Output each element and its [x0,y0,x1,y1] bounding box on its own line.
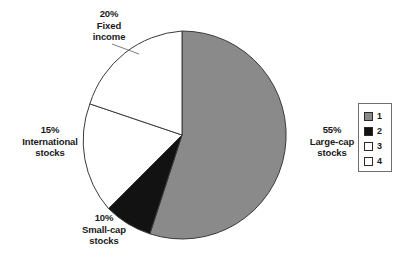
legend-swatch-3-icon [364,142,373,151]
legend-swatch-1-icon [364,112,373,121]
legend-item-4[interactable]: 4 [364,154,391,169]
legend-swatch-2-icon [364,127,373,136]
chart-legend: 1 2 3 4 [358,103,392,172]
legend-label-2: 2 [377,127,382,136]
pie-label-international-line1: International [2,136,98,148]
legend-label-3: 3 [377,142,382,151]
pie-label-fixed-income: 20% Fixed income [72,8,146,43]
legend-item-3[interactable]: 3 [364,139,391,154]
pie-label-small-cap: 10% Small-cap stocks [62,212,146,247]
pie-label-small-cap-line2: stocks [62,235,146,247]
legend-item-1[interactable]: 1 [364,109,391,124]
legend-label-1: 1 [377,112,382,121]
pie-label-international: 15% International stocks [2,124,98,159]
pie-label-fixed-income-percent: 20% [72,8,146,20]
pie-chart-figure: 20% Fixed income 15% International stock… [0,0,409,262]
pie-label-small-cap-percent: 10% [62,212,146,224]
pie-label-fixed-income-line2: income [72,31,146,43]
pie-label-small-cap-line1: Small-cap [62,224,146,236]
legend-label-4: 4 [377,157,382,166]
pie-label-fixed-income-line1: Fixed [72,20,146,32]
pie-label-international-line2: stocks [2,147,98,159]
pie-label-international-percent: 15% [2,124,98,136]
legend-item-2[interactable]: 2 [364,124,391,139]
legend-swatch-4-icon [364,157,373,166]
